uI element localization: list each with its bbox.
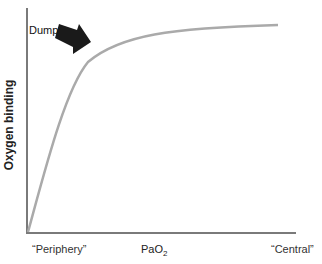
oxygen-binding-chart <box>0 0 322 264</box>
x-tick-periphery: “Periphery” <box>32 243 86 255</box>
dump-annotation: Dump <box>29 24 58 36</box>
x-axis-label-subscript: 2 <box>163 249 167 258</box>
y-axis-label: Oxygen binding <box>2 70 16 180</box>
dissociation-curve <box>28 25 278 232</box>
dump-arrow-icon <box>55 24 91 54</box>
x-axis-label: PaO2 <box>141 243 167 258</box>
x-axis-label-main: PaO <box>141 243 163 255</box>
x-tick-central: “Central” <box>271 243 314 255</box>
